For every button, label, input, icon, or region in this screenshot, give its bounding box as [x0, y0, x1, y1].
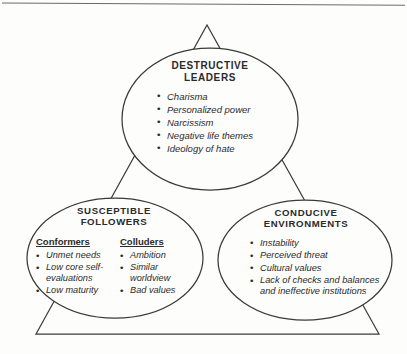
- list-item: Bad values: [120, 285, 198, 296]
- conducive-environments-heading-line1: CONDUCIVE: [228, 207, 384, 218]
- susceptible-followers-heading-line1: SUSCEPTIBLE: [30, 205, 198, 216]
- colluders-column: Colluders Ambition Similar worldview Bad…: [114, 236, 198, 298]
- list-item: Narcissism: [157, 117, 287, 128]
- conducive-environments-node: CONDUCIVE ENVIRONMENTS Instability Perce…: [228, 207, 384, 299]
- conformers-list: Unmet needs Low core self-evaluations Lo…: [36, 250, 114, 296]
- list-item: Ambition: [120, 250, 198, 261]
- list-item: Low maturity: [36, 285, 114, 296]
- list-item: Personalized power: [157, 104, 287, 115]
- colluders-title: Colluders: [120, 236, 198, 247]
- destructive-leaders-heading-line2: LEADERS: [133, 72, 287, 84]
- susceptible-followers-heading-line2: FOLLOWERS: [30, 216, 198, 227]
- destructive-leaders-heading: DESTRUCTIVE LEADERS: [133, 60, 287, 84]
- list-item: Unmet needs: [36, 250, 114, 261]
- conducive-environments-heading-line2: ENVIRONMENTS: [228, 218, 384, 229]
- toxic-triangle-graphic: [0, 0, 407, 354]
- colluders-list: Ambition Similar worldview Bad values: [120, 250, 198, 296]
- conducive-environments-list: Instability Perceived threat Cultural va…: [250, 238, 384, 297]
- top-divider-rule: [2, 3, 405, 5]
- diagram-page: DESTRUCTIVE LEADERS Charisma Personalize…: [0, 0, 407, 354]
- list-item: Negative life themes: [157, 130, 287, 141]
- list-item: Low core self-evaluations: [36, 262, 114, 283]
- list-item: Perceived threat: [250, 250, 384, 261]
- conducive-environments-heading: CONDUCIVE ENVIRONMENTS: [228, 207, 384, 230]
- destructive-leaders-node: DESTRUCTIVE LEADERS Charisma Personalize…: [133, 60, 287, 156]
- list-item: Instability: [250, 238, 384, 249]
- list-item: Ideology of hate: [157, 143, 287, 154]
- list-item: Similar worldview: [120, 262, 198, 283]
- followers-columns: Conformers Unmet needs Low core self-eva…: [36, 236, 198, 298]
- list-item: Lack of checks and balances and ineffect…: [250, 275, 384, 297]
- destructive-leaders-heading-line1: DESTRUCTIVE: [133, 60, 287, 72]
- list-item: Charisma: [157, 91, 287, 102]
- list-item: Cultural values: [250, 263, 384, 274]
- conformers-column: Conformers Unmet needs Low core self-eva…: [36, 236, 114, 298]
- susceptible-followers-heading: SUSCEPTIBLE FOLLOWERS: [30, 205, 198, 228]
- conformers-title: Conformers: [36, 236, 114, 247]
- susceptible-followers-node: SUSCEPTIBLE FOLLOWERS Conformers Unmet n…: [30, 205, 198, 297]
- destructive-leaders-list: Charisma Personalized power Narcissism N…: [157, 91, 287, 154]
